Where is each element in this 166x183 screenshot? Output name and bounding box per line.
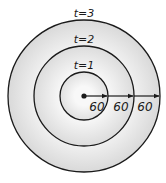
label-t3: t=3 xyxy=(74,7,95,20)
segment-label-2: 60 xyxy=(113,100,129,114)
label-t1: t=1 xyxy=(74,59,95,72)
center-point xyxy=(81,93,86,98)
segment-label-3: 60 xyxy=(137,100,153,114)
concentric-circles-diagram: t=3 t=2 t=1 60 60 60 xyxy=(0,0,166,183)
label-t2: t=2 xyxy=(74,33,95,46)
segment-label-1: 60 xyxy=(89,100,105,114)
